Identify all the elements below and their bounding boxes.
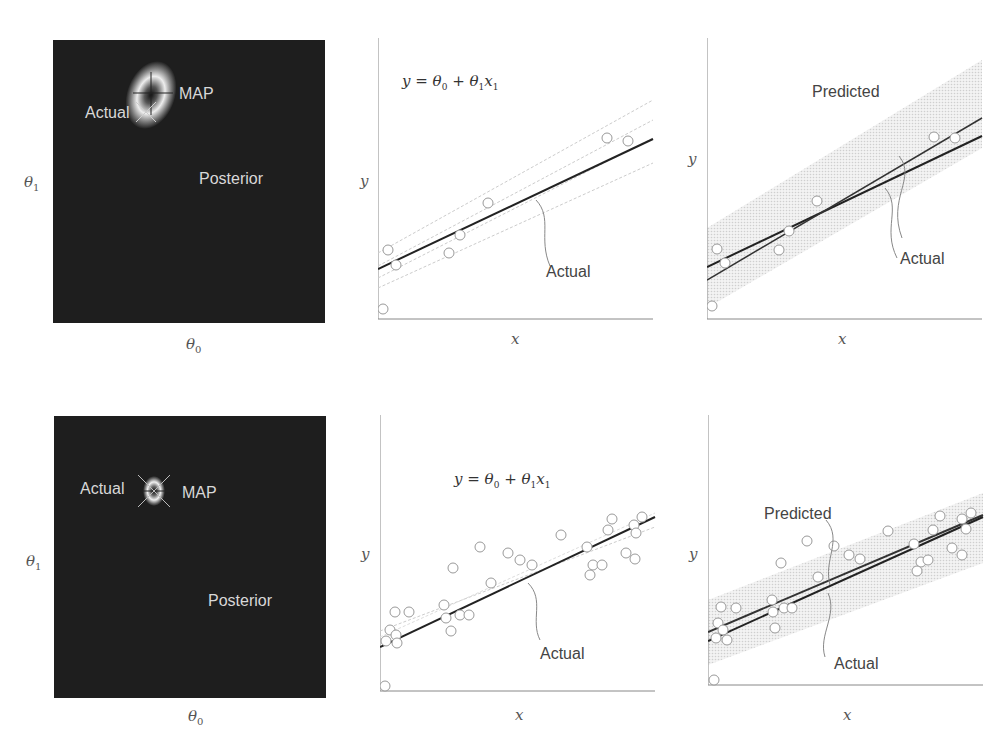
posterior-blob-top xyxy=(53,40,325,323)
posterior-heatmap-bottom: Actual MAP Posterior xyxy=(54,416,326,698)
predicted-plot-top: Predicted Actual xyxy=(707,38,992,323)
x-axis-label: x xyxy=(843,706,851,724)
posterior-label: Posterior xyxy=(199,170,263,188)
map-label: MAP xyxy=(182,484,217,502)
predicted-plot-svg xyxy=(707,38,992,323)
theta0-axis-label: θ0 xyxy=(186,335,201,355)
posterior-blob-bottom xyxy=(54,416,326,698)
predicted-plot-svg xyxy=(708,415,993,695)
theta1-axis-label: θ1 xyxy=(24,173,39,193)
sampled-lines-plot-top: y = θ0 + θ1x1 Actual xyxy=(378,38,663,323)
x-axis-label: x xyxy=(511,330,519,348)
predicted-plot-bottom: Predicted Actual xyxy=(708,415,993,695)
actual-line-label: Actual xyxy=(834,655,878,673)
posterior-label: Posterior xyxy=(208,592,272,610)
model-equation: y = θ0 + θ1x1 xyxy=(454,470,550,490)
theta1-axis-label: θ1 xyxy=(26,552,41,572)
posterior-heatmap-top: Actual MAP Posterior xyxy=(53,40,325,323)
sampled-lines-plot-bottom: y = θ0 + θ1x1 Actual xyxy=(380,415,665,695)
actual-label: Actual xyxy=(80,480,124,498)
x-axis-label: x xyxy=(515,706,523,724)
y-axis-label: y xyxy=(361,545,369,563)
y-axis-label: y xyxy=(688,150,696,168)
actual-label: Actual xyxy=(85,104,129,122)
y-axis-label: y xyxy=(689,545,697,563)
actual-line-label: Actual xyxy=(900,250,944,268)
x-axis-label: x xyxy=(838,330,846,348)
actual-line-label: Actual xyxy=(546,263,590,281)
predicted-line-label: Predicted xyxy=(812,83,880,101)
actual-line-label: Actual xyxy=(540,645,584,663)
y-axis-label: y xyxy=(360,172,368,190)
scatter-plot-svg xyxy=(380,415,665,695)
model-equation: y = θ0 + θ1x1 xyxy=(402,72,498,92)
predicted-line-label: Predicted xyxy=(764,505,832,523)
theta0-axis-label: θ0 xyxy=(188,707,203,727)
map-label: MAP xyxy=(179,85,214,103)
